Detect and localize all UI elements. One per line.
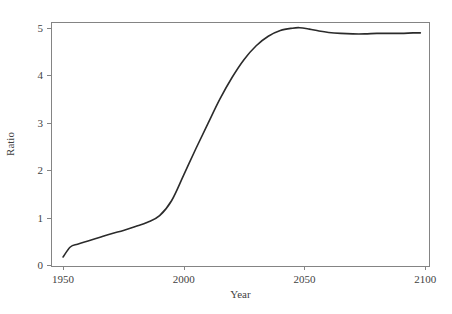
x-tick-label-2050: 2050: [293, 273, 316, 285]
x-axis-ticks: [64, 266, 426, 270]
chart-figure: 1950200020502100 012345 Year Ratio: [0, 0, 452, 314]
axes-frame: [52, 23, 430, 267]
data-line-Ratio: [63, 28, 420, 257]
y-tick-label-5: 5: [38, 22, 44, 34]
y-tick-label-0: 0: [38, 259, 44, 271]
y-tick-label-4: 4: [38, 69, 44, 81]
x-axis-title: Year: [230, 288, 251, 300]
line-chart: 1950200020502100 012345 Year Ratio: [0, 0, 452, 314]
y-axis-ticks: [47, 29, 51, 266]
y-axis-tick-labels: 012345: [38, 22, 44, 271]
y-tick-label-1: 1: [38, 212, 44, 224]
y-tick-label-3: 3: [38, 117, 44, 129]
data-series-group: [63, 28, 420, 257]
y-tick-label-2: 2: [38, 164, 44, 176]
x-tick-label-2000: 2000: [173, 273, 196, 285]
x-tick-label-2100: 2100: [414, 273, 437, 285]
x-axis-tick-labels: 1950200020502100: [52, 273, 437, 285]
x-tick-label-1950: 1950: [52, 273, 75, 285]
y-axis-title: Ratio: [4, 132, 16, 156]
